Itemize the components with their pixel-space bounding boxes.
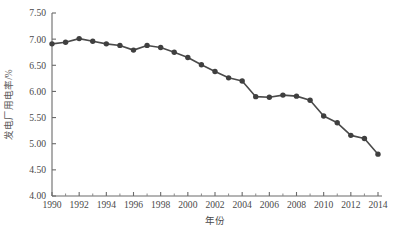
data-point bbox=[307, 98, 312, 103]
data-point bbox=[321, 113, 326, 118]
data-point bbox=[131, 47, 136, 52]
x-tick-label: 1996 bbox=[124, 199, 143, 210]
data-series-line bbox=[52, 39, 378, 155]
data-point bbox=[144, 43, 149, 48]
data-point bbox=[90, 39, 95, 44]
x-tick-label: 2006 bbox=[260, 199, 279, 210]
x-tick-label: 2008 bbox=[287, 199, 306, 210]
x-tick-label: 2014 bbox=[368, 199, 387, 210]
data-point bbox=[76, 36, 81, 41]
data-point bbox=[294, 93, 299, 98]
data-point bbox=[104, 41, 109, 46]
y-axis-tick-labels: 4.004.505.005.506.006.507.007.50 bbox=[29, 7, 46, 201]
y-axis-title: 发电厂用电率/% bbox=[3, 69, 14, 140]
axis-tick-marks bbox=[52, 13, 378, 196]
data-point bbox=[49, 41, 54, 46]
x-tick-label: 2002 bbox=[205, 199, 224, 210]
x-tick-label: 1990 bbox=[42, 199, 61, 210]
x-tick-label: 1992 bbox=[70, 199, 89, 210]
data-point bbox=[375, 151, 380, 156]
data-point bbox=[117, 43, 122, 48]
data-point bbox=[226, 75, 231, 80]
data-point bbox=[267, 94, 272, 99]
x-tick-label: 1994 bbox=[97, 199, 116, 210]
x-tick-label: 2004 bbox=[233, 199, 252, 210]
x-tick-label: 2012 bbox=[341, 199, 360, 210]
data-series-markers bbox=[49, 36, 380, 157]
y-tick-label: 7.50 bbox=[29, 7, 46, 18]
x-axis-title: 年份 bbox=[205, 215, 225, 226]
data-point bbox=[335, 120, 340, 125]
data-point bbox=[158, 45, 163, 50]
y-tick-label: 5.50 bbox=[29, 112, 46, 123]
data-point bbox=[199, 62, 204, 67]
x-axis-tick-labels: 1990199219941996199820002002200420062008… bbox=[42, 199, 387, 210]
y-tick-label: 4.50 bbox=[29, 164, 46, 175]
data-point bbox=[212, 69, 217, 74]
y-tick-label: 7.00 bbox=[29, 34, 46, 45]
y-tick-label: 6.00 bbox=[29, 86, 46, 97]
data-point bbox=[253, 94, 258, 99]
chart-figure: 4.004.505.005.506.006.507.007.50 1990199… bbox=[0, 0, 399, 241]
line-chart: 4.004.505.005.506.006.507.007.50 1990199… bbox=[0, 0, 399, 241]
data-point bbox=[348, 133, 353, 138]
y-tick-label: 6.50 bbox=[29, 60, 46, 71]
data-point bbox=[239, 78, 244, 83]
data-point bbox=[280, 92, 285, 97]
data-point bbox=[185, 55, 190, 60]
data-point bbox=[362, 136, 367, 141]
x-tick-label: 2010 bbox=[314, 199, 333, 210]
axis-lines bbox=[52, 13, 382, 196]
data-point bbox=[172, 50, 177, 55]
x-tick-label: 1998 bbox=[151, 199, 170, 210]
data-point bbox=[63, 40, 68, 45]
x-tick-label: 2000 bbox=[178, 199, 197, 210]
y-tick-label: 5.00 bbox=[29, 138, 46, 149]
